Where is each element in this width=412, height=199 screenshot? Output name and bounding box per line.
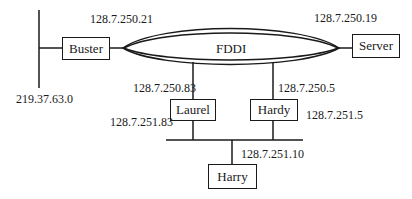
node-laurel: Laurel <box>170 99 216 121</box>
node-buster-label: Buster <box>69 41 103 57</box>
node-hardy: Hardy <box>250 99 298 121</box>
laurel-ring-ip: 128.7.250.83 <box>133 81 196 95</box>
node-server: Server <box>352 34 400 58</box>
hardy-ring-ip: 128.7.250.5 <box>278 81 335 95</box>
node-buster: Buster <box>62 37 110 60</box>
laurel-lan-ip: 128.7.251.83 <box>110 115 173 129</box>
harry-lan-ip: 128.7.251.10 <box>241 147 304 161</box>
node-hardy-label: Hardy <box>258 102 291 118</box>
buster-ring-ip: 128.7.250.21 <box>90 12 153 26</box>
hardy-lan-ip: 128.7.251.5 <box>306 108 363 122</box>
node-harry-label: Harry <box>217 169 247 185</box>
node-laurel-label: Laurel <box>176 102 210 118</box>
server-ring-ip: 128.7.250.19 <box>314 11 377 25</box>
buster-external-network: 219.37.63.0 <box>16 92 73 106</box>
node-harry: Harry <box>208 164 257 189</box>
node-server-label: Server <box>359 38 393 54</box>
fddi-ring-label: FDDI <box>216 41 246 56</box>
